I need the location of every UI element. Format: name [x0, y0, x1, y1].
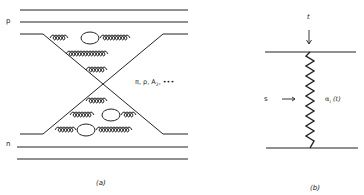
- gluon-row-bottom-1: [55, 124, 132, 136]
- t-label: t: [307, 14, 310, 21]
- gluon-row-bottom-3: [86, 98, 107, 103]
- regge-label: αi (t): [325, 96, 341, 105]
- panel-b-caption: (b): [310, 185, 320, 192]
- diagram-canvas: [0, 0, 364, 195]
- neutron-label: n: [6, 141, 10, 148]
- gluon-row-top-2: [66, 51, 108, 56]
- regge-label-arg: (t): [331, 95, 341, 103]
- gluon-row-top-3: [86, 67, 107, 72]
- s-label: s: [264, 96, 268, 103]
- gluon-row-top-1: [50, 32, 130, 44]
- panel-b-diagram: [265, 30, 358, 148]
- exchange-label: π, ρ, A2, •••: [135, 79, 174, 88]
- gluon-row-bottom-2: [70, 109, 136, 121]
- regge-trajectory-zigzag: [306, 52, 314, 148]
- exchange-label-text: π, ρ, A: [135, 78, 156, 86]
- panel-a-caption: (a): [96, 180, 106, 187]
- proton-label: p: [6, 18, 10, 25]
- exchange-label-suffix: , •••: [159, 78, 175, 86]
